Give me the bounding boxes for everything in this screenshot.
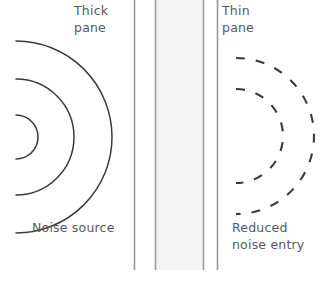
incident-wave-arc-3	[16, 41, 112, 233]
transmitted-sound-waves	[236, 58, 314, 214]
transmitted-wave-arc-1	[236, 89, 283, 183]
incident-wave-arc-1	[16, 115, 38, 159]
incident-sound-waves	[16, 41, 112, 233]
reduced-noise-entry-label: Reduced noise entry	[232, 219, 304, 253]
thick-pane-label: Thick pane	[74, 2, 108, 36]
diagram-canvas: Thick pane Thin pane Noise source Reduce…	[0, 0, 335, 281]
cavity-air-gap	[156, 0, 204, 270]
noise-source-label: Noise source	[32, 219, 115, 236]
transmitted-wave-arc-2	[236, 58, 314, 214]
incident-wave-arc-2	[16, 79, 74, 195]
thin-pane-label: Thin pane	[222, 2, 254, 36]
